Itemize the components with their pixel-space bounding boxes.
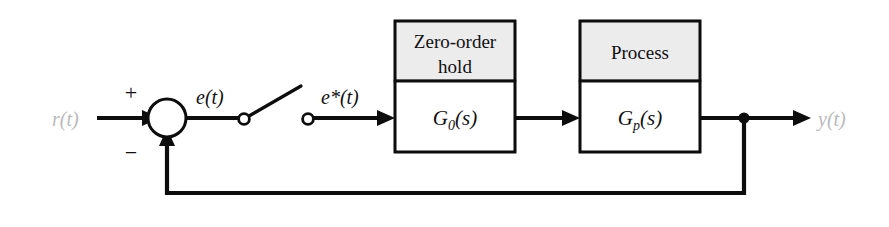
arrowhead-into-zoh	[377, 110, 395, 126]
summing-junction-plus-sign: +	[125, 80, 137, 105]
process-tf-letter: G	[618, 106, 633, 130]
block-diagram-svg: + − Zero-order hold G0(s) Process Gp(s)	[0, 0, 889, 227]
signal-label-reference: r(t)	[52, 108, 79, 131]
wire-zoh-to-process	[515, 110, 580, 126]
zoh-tf-subscript: 0	[448, 118, 455, 133]
signal-label-output: y(t)	[816, 108, 846, 131]
wire-process-to-output	[700, 110, 811, 126]
sampler-node-left[interactable]	[239, 114, 250, 125]
process-transfer-function: Gp(s)	[618, 106, 662, 133]
zoh-header-label-line1: Zero-order	[414, 31, 497, 52]
signal-label-sampled-error: e*(t)	[321, 86, 359, 109]
sampler-node-right[interactable]	[303, 114, 314, 125]
process-tf-subscript: p	[632, 118, 640, 133]
wire-sampled-error-to-zoh	[314, 110, 395, 126]
process-header-label-line1: Process	[611, 42, 669, 63]
block-diagram-canvas: + − Zero-order hold G0(s) Process Gp(s)	[0, 0, 889, 227]
signal-label-error: e(t)	[196, 86, 224, 109]
summing-junction-minus-sign: −	[125, 140, 137, 165]
arrowhead-output	[793, 110, 811, 126]
block-process[interactable]: Process Gp(s)	[580, 21, 700, 152]
sampler-switch[interactable]	[239, 86, 314, 124]
process-tf-argument: (s)	[640, 106, 662, 130]
zoh-tf-argument: (s)	[455, 106, 477, 130]
zoh-transfer-function: G0(s)	[433, 106, 477, 133]
sampler-switch-arm[interactable]	[249, 86, 301, 116]
arrowhead-into-process	[562, 110, 580, 126]
zoh-header-label-line2: hold	[438, 56, 472, 77]
zoh-tf-letter: G	[433, 106, 448, 130]
block-zero-order-hold[interactable]: Zero-order hold G0(s)	[395, 21, 515, 152]
summing-junction	[148, 99, 186, 137]
